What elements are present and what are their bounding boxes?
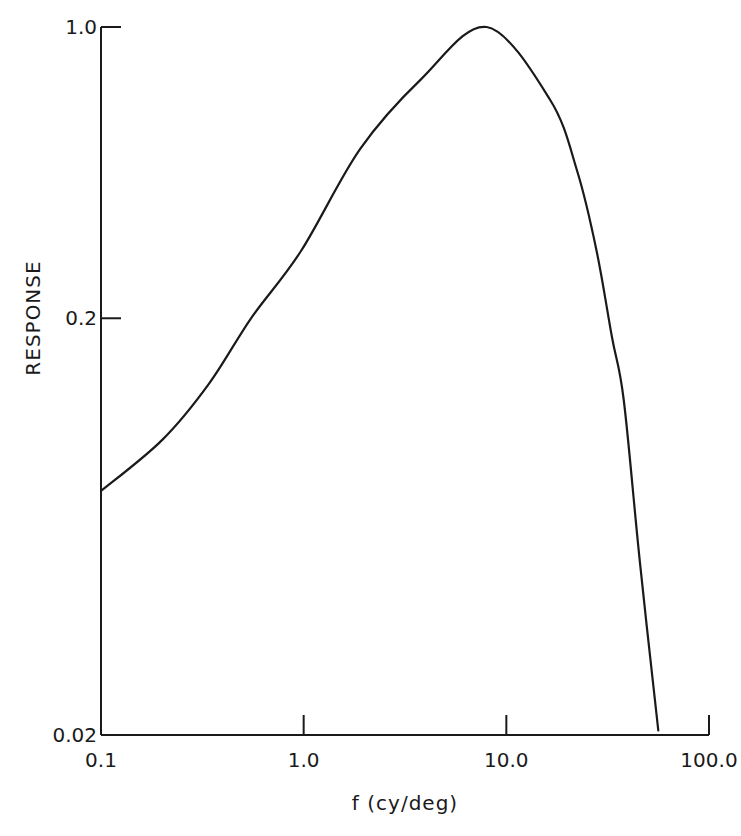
x-tick-label: 1.0 [288,748,320,772]
y-tick-label: 1.0 [65,15,97,39]
response-curve [101,27,658,731]
response-chart: 0.020.21.00.11.010.0100.0 RESPONSE f (cy… [0,0,741,836]
x-tick-label: 0.1 [85,748,117,772]
x-tick-label: 100.0 [680,748,737,772]
y-tick-label: 0.2 [65,306,97,330]
x-axis-title: f (cy/deg) [352,791,458,815]
y-tick-label: 0.02 [52,723,97,747]
axes: 0.020.21.00.11.010.0100.0 [52,15,737,772]
y-axis-title: RESPONSE [21,260,45,375]
x-tick-label: 10.0 [484,748,529,772]
